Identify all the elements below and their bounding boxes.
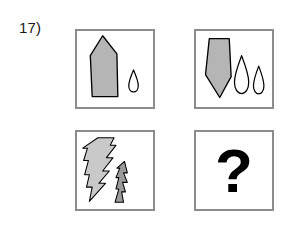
top-left-panel[interactable] [75,29,155,109]
bottom-left-panel-artwork [77,132,153,209]
white-teardrop-medium-shape [234,56,248,94]
bottom-right-panel[interactable]: ? [194,130,274,211]
top-right-panel[interactable] [194,29,274,109]
bottom-left-panel[interactable] [75,130,155,211]
white-teardrop-small-shape [253,66,263,94]
dark-gray-lightning-sliver-shape [115,161,127,202]
white-teardrop-small-shape [129,70,139,92]
gray-pentagon-point-down-shape [206,39,232,98]
puzzle-container: 17) ? [0,0,288,225]
question-number-label: 17) [19,20,41,35]
light-gray-lightning-bolt-shape [83,138,116,202]
top-left-panel-artwork [77,31,153,107]
gray-pentagon-point-up-shape [90,36,118,97]
top-right-panel-artwork [196,31,272,107]
question-mark-placeholder: ? [196,132,272,209]
